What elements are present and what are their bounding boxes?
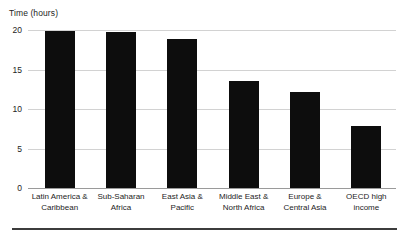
plot-area: 05101520 [28,30,396,188]
x-axis-label-line: income [329,203,403,214]
bar-5 [290,92,320,188]
y-axis-title: Time (hours) [9,8,58,18]
bar-2 [106,32,136,188]
y-tick-label-15: 15 [13,65,22,75]
y-tick-label-0: 0 [17,183,22,193]
y-tick-label-20: 20 [13,25,22,35]
axis-baseline: 0 [28,188,396,189]
bars-group [28,30,396,188]
footer-rule [12,228,397,230]
bar-3 [167,39,197,188]
x-axis-label-line: OECD high [329,192,403,203]
bar-chart-figure: Time (hours) 05101520 Latin America &Car… [0,0,409,239]
x-axis-label-6: OECD highincome [329,192,403,213]
bar-6 [351,126,381,188]
bar-4 [229,81,259,188]
bar-1 [45,31,75,188]
y-tick-label-5: 5 [17,144,22,154]
y-tick-label-10: 10 [13,104,22,114]
x-axis-labels: Latin America &CaribbeanSub-SaharanAfric… [28,192,396,218]
